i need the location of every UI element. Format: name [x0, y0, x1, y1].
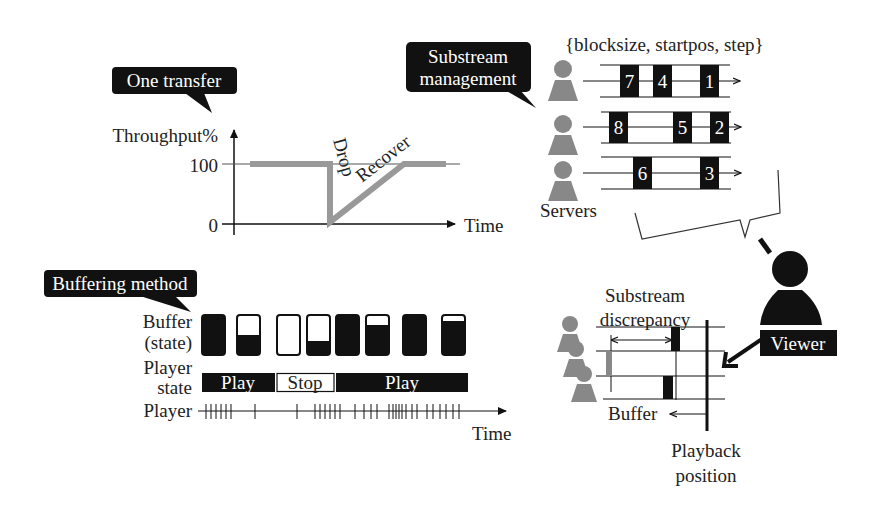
x-axis-label: Time [464, 215, 503, 236]
block-lane-3 [663, 376, 673, 399]
buffer-glyph [202, 315, 225, 355]
params-label: {blocksize, startpos, step} [565, 34, 764, 55]
diagram-canvas: One transfer Throughput% 100 0 Time Drop… [0, 0, 876, 515]
viewer-label: Viewer [771, 333, 826, 354]
buffering-bubble: Buffering method [44, 270, 197, 312]
block-1: 1 [705, 71, 715, 92]
state-play-2-label: Play [385, 372, 419, 393]
one-transfer-section: One transfer Throughput% 100 0 Time Drop… [112, 67, 503, 236]
buffer-glyph [237, 315, 260, 355]
viewer-section: Viewer Substream discrepancy [557, 239, 837, 486]
one-transfer-label: One transfer [127, 70, 222, 91]
buffering-section: Buffering method Buffer (state) Player s… [44, 270, 511, 444]
player-state-line1: Player [143, 357, 192, 378]
substream-bubble: Substream management [406, 42, 536, 108]
substream-section: Substream management {blocksize, startpo… [406, 34, 780, 239]
buffer-glyph [366, 315, 389, 355]
block-5: 5 [678, 117, 688, 138]
y-axis-label: Throughput% [112, 125, 218, 146]
buffer-glyph [336, 315, 359, 355]
viewer-badge: Viewer [760, 330, 837, 356]
block-2: 2 [715, 117, 725, 138]
discrepancy-line1: Substream [605, 285, 685, 306]
one-transfer-bubble: One transfer [112, 67, 237, 113]
state-stop-label: Stop [288, 372, 323, 393]
viewer-server-icons [557, 316, 597, 402]
tick-100: 100 [190, 155, 219, 176]
tick-0: 0 [209, 215, 219, 236]
player-state-line2: state [157, 377, 192, 398]
block-3: 3 [705, 163, 715, 184]
substream-row-2: 8 5 2 [583, 112, 741, 143]
buffer-state-line2: (state) [145, 332, 192, 354]
buffer-state-line1: Buffer [143, 311, 193, 332]
time-label: Time [472, 423, 511, 444]
block-lane-1 [671, 327, 680, 351]
substream-row-1: 7 4 1 [583, 65, 740, 97]
buffer-glyph [307, 315, 330, 355]
block-lane-2 [606, 351, 612, 376]
buffer-states [202, 315, 465, 355]
viewer-icon [760, 251, 822, 325]
substream-bubble-line2: management [419, 68, 517, 89]
viewer-signal-mark [760, 239, 770, 253]
player-label: Player [143, 400, 192, 421]
substream-bubble-line1: Substream [428, 46, 508, 67]
buffer-label: Buffer [608, 403, 658, 424]
servers-label: Servers [540, 200, 597, 221]
buffer-glyph [277, 315, 300, 355]
block-7: 7 [625, 71, 635, 92]
server-icon [548, 161, 578, 201]
playback-line2: position [675, 465, 737, 486]
block-4: 4 [658, 71, 668, 92]
player-state-bar: Play Stop Play [202, 372, 468, 393]
server-icon [548, 60, 578, 101]
playback-line1: Playback [671, 440, 741, 461]
buffering-label: Buffering method [52, 273, 188, 294]
server-icons [548, 60, 578, 201]
state-play-1-label: Play [221, 372, 255, 393]
buffer-glyph [403, 315, 426, 355]
block-8: 8 [614, 117, 624, 138]
buffer-glyph [442, 315, 465, 355]
block-6: 6 [638, 163, 648, 184]
server-icon [548, 115, 578, 155]
substream-row-3: 6 3 [583, 157, 741, 189]
